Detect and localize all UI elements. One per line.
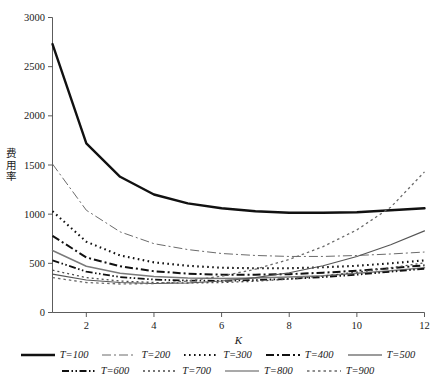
legend-row-1: T=100T=200T=300T=400T=500 <box>0 349 436 360</box>
legend-item-t600[interactable]: T=600 <box>62 365 130 376</box>
x-axis-tick-label: 12 <box>419 320 430 331</box>
legend-item-label: T=600 <box>101 365 130 376</box>
y-axis-title-char: 率 <box>4 171 18 183</box>
x-axis-tick-label: 8 <box>287 320 292 331</box>
legend-item-label: T=700 <box>182 365 211 376</box>
legend-item-t800[interactable]: T=800 <box>225 365 293 376</box>
legend-item-t500[interactable]: T=500 <box>348 349 416 360</box>
x-axis-tick-label: 4 <box>151 320 157 331</box>
legend-line-swatch <box>307 366 341 376</box>
y-axis-tick-label: 1500 <box>24 160 45 171</box>
x-axis-tick-label: 10 <box>352 320 363 331</box>
legend-item-t700[interactable]: T=700 <box>143 365 211 376</box>
legend-item-t100[interactable]: T=100 <box>21 349 89 360</box>
y-axis-tick-label: 3000 <box>24 12 45 23</box>
series-line-t100 <box>53 44 425 213</box>
legend-line-swatch <box>348 350 382 360</box>
y-axis-tick-label: 0 <box>40 307 45 318</box>
y-axis-tick-label: 2000 <box>24 110 45 121</box>
x-axis-tick-label: 6 <box>219 320 224 331</box>
legend-item-label: T=300 <box>223 349 252 360</box>
legend-line-swatch <box>184 350 218 360</box>
legend-line-swatch <box>143 366 177 376</box>
y-axis-title: 费用率 <box>4 148 18 183</box>
legend-item-label: T=800 <box>264 365 293 376</box>
legend-row-2: T=600T=700T=800T=900 <box>0 365 436 376</box>
legend-line-swatch <box>62 366 96 376</box>
chart-legend: T=100T=200T=300T=400T=500 T=600T=700T=80… <box>0 349 436 389</box>
legend-item-t300[interactable]: T=300 <box>184 349 252 360</box>
legend-line-swatch <box>225 366 259 376</box>
chart-figure: 05001000150020002500300024681012K 费用率 T=… <box>0 0 436 392</box>
series-line-t300 <box>53 211 425 268</box>
y-axis-title-char: 费 <box>4 148 18 160</box>
legend-item-label: T=200 <box>141 349 170 360</box>
legend-item-label: T=100 <box>60 349 89 360</box>
line-chart-canvas: 05001000150020002500300024681012K <box>0 0 436 392</box>
x-axis-tick-label: 2 <box>84 320 89 331</box>
legend-item-t900[interactable]: T=900 <box>307 365 375 376</box>
legend-line-swatch <box>21 350 55 360</box>
y-axis-tick-label: 1000 <box>24 209 45 220</box>
y-axis-tick-label: 500 <box>29 258 45 269</box>
legend-item-label: T=400 <box>305 349 334 360</box>
legend-line-swatch <box>102 350 136 360</box>
legend-item-t400[interactable]: T=400 <box>266 349 334 360</box>
legend-item-t200[interactable]: T=200 <box>102 349 170 360</box>
legend-item-label: T=900 <box>346 365 375 376</box>
legend-item-label: T=500 <box>387 349 416 360</box>
x-axis-title: K <box>234 334 243 346</box>
y-axis-tick-label: 2500 <box>24 61 45 72</box>
legend-line-swatch <box>266 350 300 360</box>
